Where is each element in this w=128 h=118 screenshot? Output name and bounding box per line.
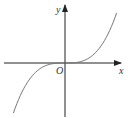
x-axis-label: x bbox=[118, 65, 124, 76]
y-axis-label: y bbox=[55, 4, 61, 15]
cubic-graph: x y O bbox=[0, 0, 128, 118]
origin-label: O bbox=[56, 65, 63, 76]
